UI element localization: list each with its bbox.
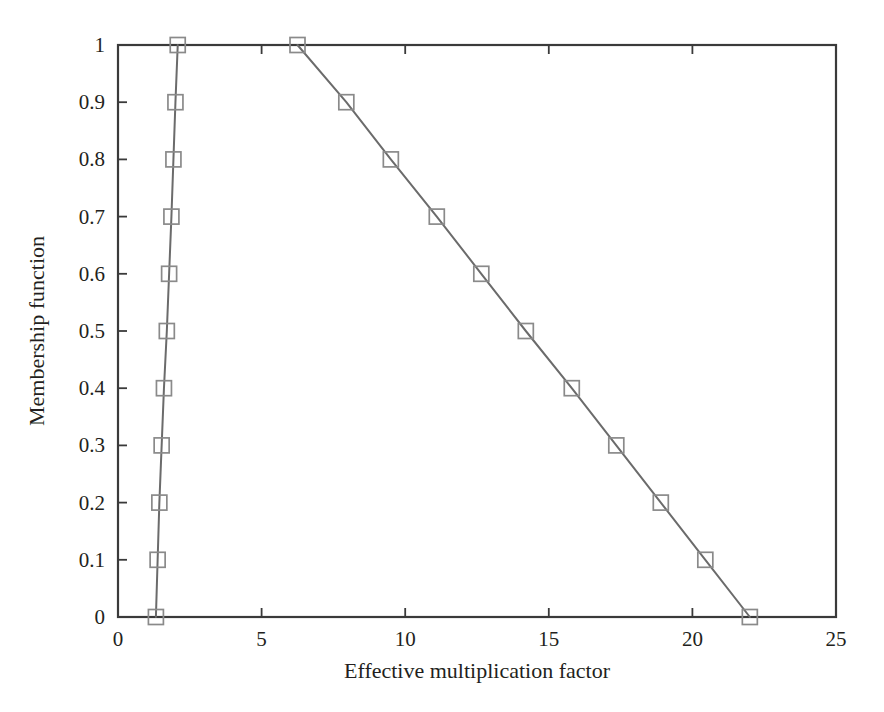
chart-background	[0, 0, 884, 712]
y-tick-label: 0.1	[79, 548, 105, 572]
y-tick-label: 1	[95, 33, 106, 57]
x-tick-label: 10	[395, 627, 416, 651]
y-tick-label: 0.9	[79, 90, 105, 114]
chart-figure: 0510152025 00.10.20.30.40.50.60.70.80.91…	[0, 0, 884, 712]
y-tick-label: 0.7	[79, 205, 105, 229]
y-tick-label: 0.3	[79, 433, 105, 457]
x-tick-label: 5	[256, 627, 267, 651]
y-tick-label: 0.2	[79, 491, 105, 515]
y-tick-label: 0.8	[79, 147, 105, 171]
x-tick-label: 25	[826, 627, 847, 651]
y-tick-label: 0.5	[79, 319, 105, 343]
x-tick-label: 0	[113, 627, 124, 651]
y-tick-label: 0.6	[79, 262, 105, 286]
x-tick-label: 20	[682, 627, 703, 651]
y-tick-label: 0.4	[79, 376, 106, 400]
y-tick-label: 0	[95, 605, 106, 629]
y-axis-title: Membership function	[24, 236, 49, 426]
x-tick-label: 15	[538, 627, 559, 651]
x-axis-title: Effective multiplication factor	[344, 658, 611, 683]
plot-canvas: 0510152025 00.10.20.30.40.50.60.70.80.91…	[0, 0, 884, 712]
